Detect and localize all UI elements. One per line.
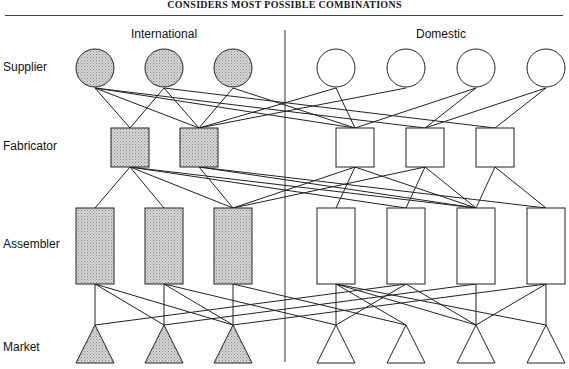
market-nodes (76, 325, 565, 363)
assembler-nodes (76, 208, 565, 284)
assembler-dom-3 (457, 208, 495, 284)
market-intl-1 (76, 325, 114, 363)
assembler-intl-3 (214, 208, 252, 284)
supplier-dom-2 (387, 49, 425, 87)
supplier-dom-3 (457, 49, 495, 87)
assembler-intl-1 (76, 208, 114, 284)
fabricator-dom-2 (406, 128, 444, 167)
fabricator-dom-3 (476, 128, 514, 167)
market-dom-3 (457, 325, 495, 363)
supplier-dom-4 (527, 49, 565, 87)
fabricator-intl-2 (180, 128, 218, 167)
assembler-intl-2 (145, 208, 183, 284)
supply-chain-diagram (0, 0, 569, 369)
assembler-dom-4 (527, 208, 565, 284)
market-intl-2 (145, 325, 183, 363)
assembler-market-links (95, 284, 546, 325)
fabricator-dom-1 (336, 128, 374, 167)
assembler-dom-2 (387, 208, 425, 284)
fabricator-assembler-links (95, 167, 546, 208)
market-intl-3 (214, 325, 252, 363)
supplier-nodes (76, 49, 565, 87)
market-dom-1 (317, 325, 355, 363)
assembler-dom-1 (317, 208, 355, 284)
fabricator-intl-1 (111, 128, 149, 167)
supplier-intl-2 (145, 49, 183, 87)
fabricator-nodes (111, 128, 514, 167)
supplier-intl-3 (214, 49, 252, 87)
supplier-dom-1 (317, 49, 355, 87)
market-dom-2 (387, 325, 425, 363)
supplier-intl-1 (76, 49, 114, 87)
market-dom-4 (527, 325, 565, 363)
supplier-fabricator-links (95, 88, 546, 128)
